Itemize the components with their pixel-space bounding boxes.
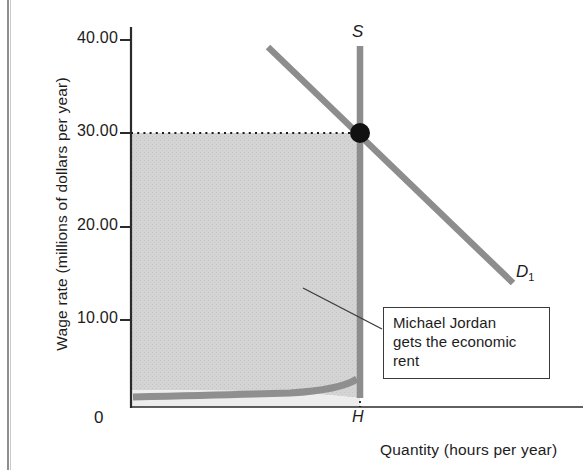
equilibrium-point	[350, 123, 370, 143]
y-tick-label-10: 10.00	[0, 309, 118, 327]
demand-curve-label: D1	[516, 262, 534, 283]
supply-curve-label: S	[352, 22, 363, 42]
y-tick-label-30: 30.00	[0, 122, 118, 140]
callout-line-1: Michael Jordan	[393, 313, 541, 332]
x-tick-label-h: H	[352, 408, 364, 426]
y-tick-label-40: 40.00	[0, 29, 118, 47]
demand-curve-label-subscript: 1	[528, 271, 534, 283]
callout-line-2: gets the economic	[393, 332, 541, 351]
origin-label: 0	[94, 408, 103, 428]
callout-line-3: rent	[393, 351, 541, 370]
chart-canvas	[0, 0, 587, 470]
economic-rent-shaded-area	[131, 133, 360, 398]
economic-rent-figure: Wage rate (millions of dollars per year)…	[0, 0, 587, 470]
x-axis-label: Quantity (hours per year)	[380, 441, 557, 459]
y-tick-label-20: 20.00	[0, 216, 118, 234]
y-axis-label: Wage rate (millions of dollars per year)	[53, 34, 71, 394]
demand-curve-label-text: D	[516, 262, 528, 281]
economic-rent-callout: Michael Jordan gets the economic rent	[383, 307, 550, 379]
